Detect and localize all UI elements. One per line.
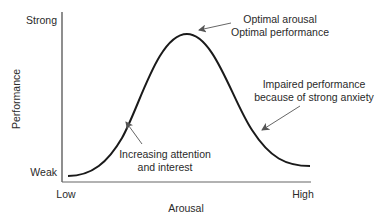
increasing-annotation-line1: Increasing attention (119, 148, 211, 160)
increasing-annotation-line2: and interest (138, 161, 193, 173)
peak-arrow (199, 23, 231, 30)
impaired-arrow (262, 106, 300, 130)
x-right-label: High (292, 188, 314, 200)
y-top-label: Strong (26, 14, 57, 26)
y-axis-title: Performance (10, 69, 22, 129)
impaired-annotation-line2: because of strong anxiety (254, 91, 374, 103)
y-bottom-label: Weak (30, 166, 57, 178)
arousal-performance-diagram: Strong Weak Performance Low High Arousal… (0, 0, 386, 219)
peak-annotation-line2: Optimal performance (231, 26, 329, 38)
x-axis-title: Arousal (168, 202, 204, 214)
increasing-arrow (126, 122, 142, 144)
impaired-annotation-line1: Impaired performance (263, 78, 366, 90)
peak-annotation-line1: Optimal arousal (243, 13, 317, 25)
x-left-label: Low (56, 188, 76, 200)
